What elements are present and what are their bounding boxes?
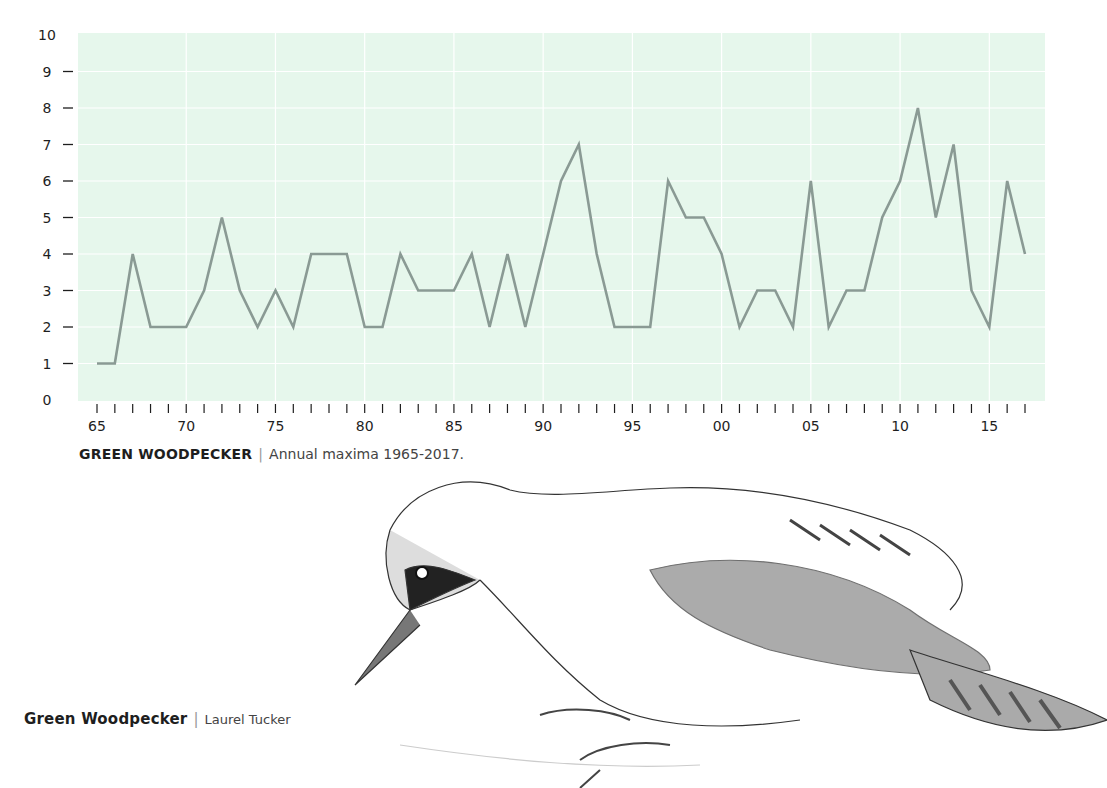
- chart-caption: GREEN WOODPECKER|Annual maxima 1965-2017…: [79, 446, 464, 462]
- y-tick-label: 10: [38, 27, 56, 43]
- y-tick-label: 2: [43, 319, 52, 335]
- x-tick-label: 10: [891, 418, 909, 434]
- y-tick-label: 9: [43, 64, 52, 80]
- credit-artist: Laurel Tucker: [205, 712, 291, 727]
- bird-beak: [355, 610, 420, 685]
- y-tick-label: 3: [43, 283, 52, 299]
- y-tick-label: 5: [43, 210, 52, 226]
- y-tick-label: 0: [43, 392, 52, 408]
- credit-bird-name: Green Woodpecker: [24, 710, 187, 728]
- woodpecker-illustration: [350, 470, 1107, 788]
- y-tick-label: 7: [43, 137, 52, 153]
- x-tick-label: 00: [713, 418, 731, 434]
- x-tick-label: 05: [802, 418, 820, 434]
- chart-caption-title: GREEN WOODPECKER: [79, 446, 252, 462]
- illustration-credit: Green Woodpecker|Laurel Tucker: [24, 710, 291, 728]
- bird-tail: [910, 650, 1107, 730]
- x-tick-label: 85: [445, 418, 463, 434]
- x-tick-label: 95: [623, 418, 641, 434]
- y-axis: 012345678910: [38, 27, 73, 408]
- x-tick-label: 65: [88, 418, 106, 434]
- line-chart: 012345678910 6570758085909500051015: [0, 0, 1107, 445]
- y-tick-label: 8: [43, 100, 52, 116]
- x-tick-label: 80: [356, 418, 374, 434]
- y-tick-label: 4: [43, 246, 52, 262]
- chart-caption-text: Annual maxima 1965-2017.: [269, 446, 464, 462]
- x-tick-label: 90: [534, 418, 552, 434]
- caption-separator: |: [193, 710, 198, 728]
- x-axis: 6570758085909500051015: [88, 404, 1025, 434]
- x-tick-label: 15: [980, 418, 998, 434]
- bird-wing: [650, 560, 990, 674]
- y-tick-label: 1: [43, 356, 52, 372]
- y-tick-label: 6: [43, 173, 52, 189]
- x-tick-label: 70: [177, 418, 195, 434]
- caption-separator: |: [258, 446, 263, 462]
- x-tick-label: 75: [267, 418, 285, 434]
